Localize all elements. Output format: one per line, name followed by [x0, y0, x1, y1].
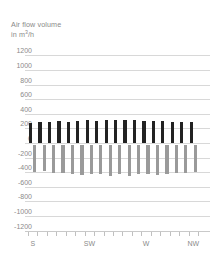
bar-group	[179, 40, 188, 232]
bar-negative	[146, 145, 149, 174]
x-axis-tick	[56, 232, 57, 236]
chart-subtitle-units: in m3/h	[11, 30, 34, 39]
bar-positive	[190, 122, 193, 143]
bar-negative	[128, 145, 131, 176]
bar-positive	[180, 122, 183, 143]
x-axis-tick	[189, 232, 190, 236]
bar-group	[85, 40, 94, 232]
bar-negative	[184, 145, 187, 173]
bar-negative	[80, 145, 83, 175]
x-axis-tick	[66, 232, 67, 236]
bar-group	[28, 40, 37, 232]
bar-group	[122, 40, 131, 232]
x-axis-tick	[141, 232, 142, 236]
bar-positive	[152, 121, 155, 143]
bar-negative	[118, 145, 121, 174]
x-axis-line	[25, 231, 210, 232]
bar-negative	[165, 145, 168, 174]
bar-negative	[90, 145, 93, 174]
bar-group	[132, 40, 141, 232]
bar-positive	[161, 121, 164, 143]
bar-negative	[156, 145, 159, 175]
bar-group	[94, 40, 103, 232]
bar-positive	[57, 121, 60, 143]
bar-group	[151, 40, 160, 232]
x-axis-tick	[179, 232, 180, 236]
bar-group	[141, 40, 150, 232]
x-axis-tick	[132, 232, 133, 236]
bar-group	[56, 40, 65, 232]
bar-positive	[114, 120, 117, 143]
x-axis-tick	[94, 232, 95, 236]
bar-positive	[86, 120, 89, 143]
bar-negative	[99, 145, 102, 174]
x-axis-tick	[85, 232, 86, 236]
x-axis-tick	[198, 232, 199, 236]
x-axis-tick	[104, 232, 105, 236]
bar-negative	[109, 145, 112, 176]
bar-positive	[105, 120, 108, 143]
bar-positive	[95, 121, 98, 143]
bar-positive	[171, 122, 174, 143]
x-axis-tick	[75, 232, 76, 236]
bar-group	[189, 40, 198, 232]
bar-positive	[123, 120, 126, 143]
bar-negative	[52, 145, 55, 173]
bar-positive	[48, 122, 51, 143]
x-axis-tick	[113, 232, 114, 236]
x-axis-tick-label: SW	[77, 240, 101, 248]
bar-negative	[137, 145, 140, 174]
chart-title: Air flow volume	[11, 20, 61, 29]
bar-group	[104, 40, 113, 232]
units-prefix: in m	[11, 30, 25, 39]
air-flow-volume-chart: Air flow volume in m3/h 1200100080060040…	[0, 0, 221, 256]
bar-positive	[67, 122, 70, 143]
x-axis-tick-label: W	[134, 240, 158, 248]
bars-container	[28, 40, 198, 232]
bar-group	[170, 40, 179, 232]
x-axis-tick-label: S	[21, 240, 45, 248]
x-axis-tick	[170, 232, 171, 236]
x-axis-tick-label: NW	[181, 240, 205, 248]
x-axis-tick	[47, 232, 48, 236]
bar-group	[113, 40, 122, 232]
bar-negative	[61, 145, 64, 173]
bar-positive	[29, 123, 32, 143]
x-axis-tick	[37, 232, 38, 236]
bar-positive	[38, 122, 41, 143]
x-axis-tick	[122, 232, 123, 236]
bar-positive	[133, 120, 136, 143]
bar-negative	[33, 145, 36, 172]
bar-negative	[194, 145, 197, 172]
bar-group	[37, 40, 46, 232]
x-axis-tick	[160, 232, 161, 236]
bar-group	[66, 40, 75, 232]
x-axis-tick	[151, 232, 152, 236]
bar-group	[160, 40, 169, 232]
bar-negative	[43, 145, 46, 171]
bar-group	[47, 40, 56, 232]
x-axis-tick	[28, 232, 29, 236]
bar-positive	[76, 121, 79, 143]
units-suffix: /h	[28, 30, 34, 39]
bar-group	[75, 40, 84, 232]
bar-negative	[175, 145, 178, 173]
bar-negative	[71, 145, 74, 174]
bar-positive	[142, 121, 145, 143]
